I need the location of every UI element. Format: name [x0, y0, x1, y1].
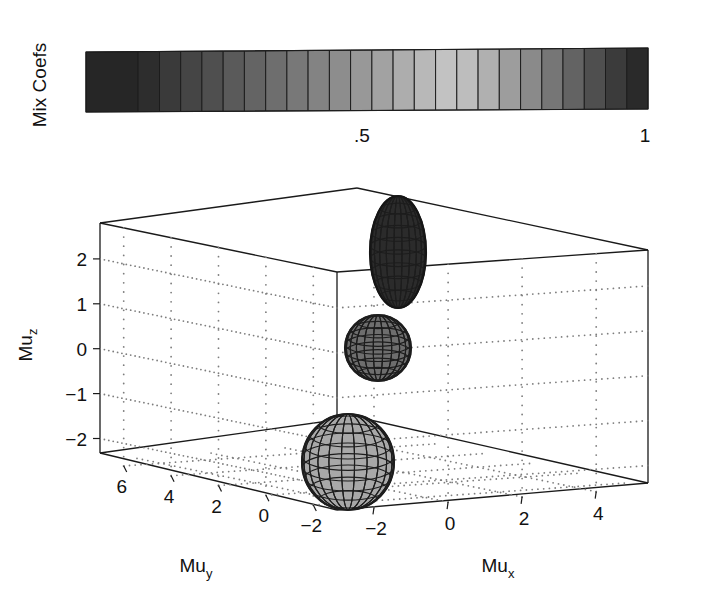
grid-dot: [265, 467, 267, 469]
grid-dot: [543, 472, 545, 474]
colorbar-tick-label: 1: [640, 125, 651, 146]
colorbar-cell[interactable]: [86, 52, 138, 112]
grid-dot: [147, 268, 149, 270]
grid-dot: [218, 375, 220, 377]
grid-dot: [156, 315, 158, 317]
colorbar-cell[interactable]: [521, 49, 542, 110]
grid-dot: [463, 478, 465, 480]
colorbar-cell[interactable]: [308, 50, 329, 111]
grid-dot: [480, 342, 482, 344]
colorbar-cell[interactable]: [542, 49, 563, 110]
grid-dot: [618, 332, 620, 334]
colorbar-cell[interactable]: [372, 50, 393, 111]
grid-dot: [399, 498, 401, 500]
grid-dot: [169, 452, 171, 454]
grid-dot: [647, 420, 649, 422]
grid-dot: [417, 436, 419, 438]
grid-dot: [239, 470, 241, 472]
colorbar-cell[interactable]: [287, 50, 308, 111]
colorbar-cells[interactable]: [86, 48, 648, 112]
colorbar-cell[interactable]: [266, 51, 287, 111]
grid-dot: [584, 334, 586, 336]
grid-dot: [584, 379, 586, 381]
colorbar-cell[interactable]: [160, 51, 181, 111]
colorbar-cell[interactable]: [563, 49, 584, 110]
grid-dot: [624, 421, 626, 423]
colorbar-cell[interactable]: [351, 50, 372, 111]
colorbar-cell[interactable]: [138, 52, 159, 112]
grid-dot: [595, 418, 597, 420]
grid-dot: [447, 391, 449, 393]
grid-dot: [152, 404, 154, 406]
grid-dot: [585, 489, 587, 491]
svg-text:Muz: Muz: [15, 329, 40, 362]
grid-dot: [595, 379, 597, 381]
grid-dot: [196, 413, 198, 415]
colorbar-cell[interactable]: [499, 49, 520, 110]
grid-dot: [448, 468, 450, 470]
grid-dot: [568, 485, 570, 487]
colorbar-cell[interactable]: [457, 49, 478, 110]
grid-dot: [248, 424, 250, 426]
grid-dot: [578, 380, 580, 382]
colorbar-cell[interactable]: [329, 50, 350, 111]
z-axis-tick-labels: 210−1−2: [65, 249, 87, 450]
grid-dot: [314, 303, 316, 305]
grid-dot: [278, 454, 280, 456]
grid-dot: [218, 366, 220, 368]
colorbar-cell[interactable]: [244, 51, 265, 111]
grid-dot: [549, 488, 551, 490]
plot3d-spheres[interactable]: [302, 196, 426, 510]
colorbar-cell[interactable]: [181, 51, 202, 111]
grid-dot: [474, 387, 476, 389]
grid-dot: [567, 425, 569, 427]
grid-dot: [590, 379, 592, 381]
grid-dot: [578, 470, 580, 472]
grid-dot: [139, 446, 141, 448]
grid-dot: [641, 375, 643, 377]
sphere-middle[interactable]: [345, 315, 411, 381]
grid-dot: [108, 350, 110, 352]
sphere-bottom[interactable]: [302, 414, 394, 510]
x-axis-label-subscript: x: [508, 566, 515, 581]
colorbar-cell[interactable]: [202, 51, 223, 111]
grid-dot: [447, 401, 449, 403]
grid-dot: [447, 355, 449, 357]
grid-dot: [373, 406, 375, 408]
grid-dot: [125, 353, 127, 355]
grid-dot: [460, 468, 462, 470]
grid-dot: [235, 331, 237, 333]
grid-dot: [108, 260, 110, 262]
grid-dot: [416, 497, 418, 499]
grid-dot: [613, 332, 615, 334]
colorbar-cell[interactable]: [627, 48, 648, 109]
grid-dot: [218, 329, 220, 331]
colorbar-cell[interactable]: [478, 49, 499, 110]
grid-dot: [515, 294, 517, 296]
grid-dot: [209, 459, 211, 461]
x-tickmark: [521, 497, 522, 504]
colorbar-cell[interactable]: [436, 49, 457, 110]
grid-dot: [318, 504, 320, 506]
colorbar-cell[interactable]: [584, 48, 605, 109]
grid-dot: [451, 299, 453, 301]
grid-dot: [323, 349, 325, 351]
colorbar[interactable]: [86, 48, 648, 112]
grid-dot: [281, 480, 283, 482]
grid-dot: [394, 446, 396, 448]
colorbar-cell[interactable]: [606, 48, 627, 109]
grid-dot: [447, 300, 449, 302]
grid-dot: [623, 482, 625, 484]
colorbar-cell[interactable]: [393, 50, 414, 111]
grid-dot: [319, 303, 321, 305]
colorbar-cell[interactable]: [414, 50, 435, 111]
ellipsoid-top[interactable]: [370, 196, 426, 308]
grid-dot: [270, 383, 272, 385]
grid-dot: [257, 381, 259, 383]
grid-dot: [382, 394, 384, 396]
grid-dot: [200, 279, 202, 281]
grid-dot: [520, 429, 522, 431]
grid-dot: [163, 463, 165, 465]
grid-dot: [309, 493, 311, 495]
colorbar-cell[interactable]: [223, 51, 244, 111]
